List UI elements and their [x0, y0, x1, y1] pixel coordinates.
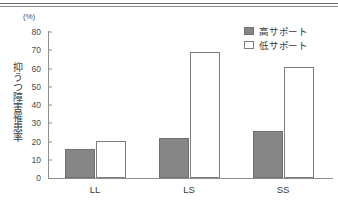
- y-axis-tick-mark: [48, 50, 52, 51]
- legend-label-low-support: 低サポート: [259, 38, 308, 52]
- y-axis-tick-mark: [48, 123, 52, 124]
- plot-area: [48, 32, 330, 178]
- y-axis-tick-mark: [48, 159, 52, 160]
- bar: [96, 141, 126, 178]
- divider-line-1: [0, 3, 338, 4]
- chart-legend: 高サポート 低サポート: [244, 24, 308, 52]
- divider-line-2: [0, 6, 338, 7]
- y-axis-tick-label: 30: [32, 118, 41, 128]
- bar-chart: (%) 抑うつ障害罹患率 01020304050607080 LLLSSS 高サ…: [0, 10, 338, 204]
- bar: [284, 67, 314, 178]
- bar-group: [65, 32, 126, 178]
- bar-group: [159, 32, 220, 178]
- bar: [65, 149, 95, 178]
- bar: [159, 138, 189, 178]
- y-axis-ticks: 01020304050607080: [0, 10, 48, 204]
- x-axis-tick-label: LS: [183, 184, 195, 195]
- y-axis-tick-mark: [48, 32, 52, 33]
- x-axis-tick-label: LL: [90, 184, 101, 195]
- top-divider: [0, 3, 338, 7]
- bar: [253, 131, 283, 178]
- y-axis-tick-label: 80: [32, 27, 41, 37]
- y-axis-tick-label: 60: [32, 64, 41, 74]
- legend-swatch-outline-icon: [244, 41, 254, 49]
- bar-group: [253, 32, 314, 178]
- y-axis-tick-label: 10: [32, 155, 41, 165]
- y-axis-tick-mark: [48, 68, 52, 69]
- bar: [190, 52, 220, 178]
- y-axis-tick-mark: [48, 86, 52, 87]
- x-axis-line: [48, 178, 333, 179]
- legend-item-low-support: 低サポート: [244, 38, 308, 52]
- y-axis-tick-label: 0: [36, 173, 41, 183]
- y-axis-tick-label: 70: [32, 45, 41, 55]
- legend-item-high-support: 高サポート: [244, 24, 308, 38]
- y-axis-tick-mark: [48, 141, 52, 142]
- legend-swatch-filled-icon: [244, 27, 254, 35]
- y-axis-tick-label: 20: [32, 137, 41, 147]
- y-axis-tick-label: 40: [32, 100, 41, 110]
- x-axis-tick-label: SS: [277, 184, 290, 195]
- y-axis-tick-mark: [48, 105, 52, 106]
- legend-label-high-support: 高サポート: [259, 24, 308, 38]
- y-axis-tick-label: 50: [32, 82, 41, 92]
